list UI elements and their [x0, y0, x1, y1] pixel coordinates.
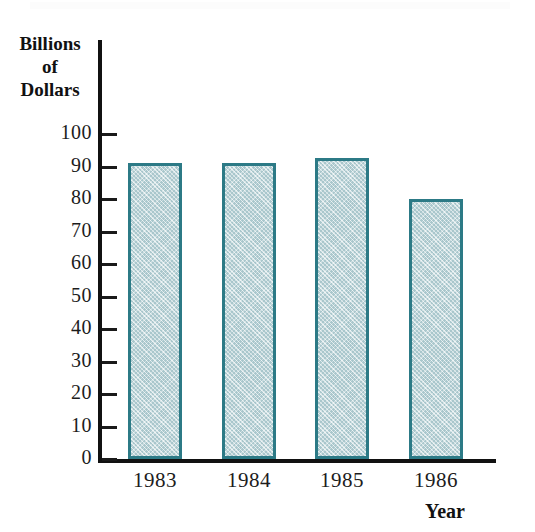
y-axis-tick-label: 80	[32, 186, 92, 209]
y-axis-tick	[102, 231, 117, 234]
y-axis-tick	[102, 133, 117, 136]
y-axis-tick-label: 20	[32, 381, 92, 404]
bar-1983	[128, 163, 182, 459]
y-axis-tick	[102, 198, 117, 201]
x-axis-label-1985: 1985	[299, 468, 385, 493]
bar-1984	[222, 163, 276, 459]
y-axis-tick	[102, 361, 117, 364]
y-axis-tick-label: 30	[32, 349, 92, 372]
y-axis-tick-label: 100	[32, 121, 92, 144]
y-axis-tick-label: 70	[32, 219, 92, 242]
bar-1986	[409, 199, 463, 459]
y-axis-tick	[102, 296, 117, 299]
y-axis-tick	[102, 328, 117, 331]
x-axis-label-1983: 1983	[112, 468, 198, 493]
y-axis-title: Billions of Dollars	[8, 32, 92, 101]
y-axis-line	[98, 40, 102, 463]
x-axis-label-1984: 1984	[206, 468, 292, 493]
scan-artifact	[30, 2, 510, 9]
y-axis-tick	[102, 393, 117, 396]
x-axis-line	[98, 459, 496, 463]
y-axis-title-line-1: Billions	[8, 32, 92, 55]
y-axis-tick	[102, 426, 117, 429]
x-axis-title: Year	[425, 500, 465, 523]
x-axis-label-1986: 1986	[393, 468, 479, 493]
y-axis-tick-label: 60	[32, 251, 92, 274]
y-axis-title-line-3: Dollars	[8, 78, 92, 101]
y-axis-tick-label: 90	[32, 154, 92, 177]
y-axis-tick	[102, 166, 117, 169]
y-axis-tick-label: 0	[32, 446, 92, 469]
y-axis-title-line-2: of	[8, 55, 92, 78]
bar-1985	[315, 158, 369, 459]
y-axis-tick-label: 40	[32, 316, 92, 339]
y-axis-tick	[102, 458, 117, 461]
y-axis-tick-label: 10	[32, 414, 92, 437]
y-axis-tick	[102, 263, 117, 266]
y-axis-tick-label: 50	[32, 284, 92, 307]
chart-figure: Billions of Dollars 10090807060504030201…	[0, 0, 535, 532]
